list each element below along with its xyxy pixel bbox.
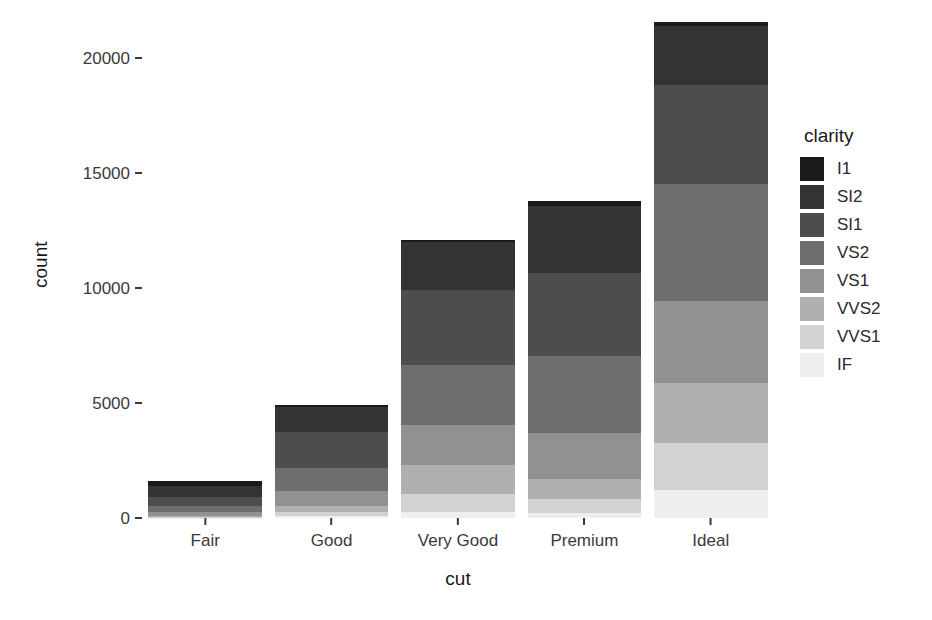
y-tick-label: 15000 xyxy=(83,166,130,182)
y-tick-mark xyxy=(135,517,142,519)
x-tick-mark xyxy=(331,518,333,525)
y-axis-title: count xyxy=(30,258,52,288)
x-tick: Good xyxy=(311,518,353,551)
bar-segment-if[interactable] xyxy=(654,490,768,518)
y-tick-label: 10000 xyxy=(83,281,130,297)
legend-swatch-if xyxy=(800,353,824,377)
legend-item-vvs2[interactable]: VVS2 xyxy=(800,296,925,321)
x-tick-label: Premium xyxy=(550,531,618,551)
y-tick-mark xyxy=(135,402,142,404)
bar-segment-vvs2[interactable] xyxy=(401,465,515,493)
x-tick-mark xyxy=(583,518,585,525)
y-tick: 10000 xyxy=(83,280,142,296)
legend-items: I1SI2SI1VS2VS1VVS2VVS1IF xyxy=(800,156,925,377)
legend-label: VS2 xyxy=(837,243,869,263)
legend-label: SI2 xyxy=(837,187,863,207)
legend-item-i1[interactable]: I1 xyxy=(800,156,925,181)
bar-segment-vs2[interactable] xyxy=(654,184,768,301)
y-tick: 15000 xyxy=(83,165,142,181)
legend-swatch-vs1 xyxy=(800,269,824,293)
bar-segment-vs2[interactable] xyxy=(401,365,515,425)
bar-segment-vvs2[interactable] xyxy=(528,479,642,499)
x-tick: Premium xyxy=(550,518,618,551)
y-tick-mark xyxy=(135,287,142,289)
legend-label: I1 xyxy=(837,159,851,179)
legend-swatch-i1 xyxy=(800,157,824,181)
bar-segment-vs2[interactable] xyxy=(528,356,642,433)
bar-segment-vs2[interactable] xyxy=(275,468,389,490)
legend-item-si1[interactable]: SI1 xyxy=(800,212,925,237)
legend-item-vs1[interactable]: VS1 xyxy=(800,268,925,293)
bar-segment-si1[interactable] xyxy=(275,432,389,468)
legend-title: clarity xyxy=(804,126,925,146)
y-tick: 5000 xyxy=(92,395,142,411)
y-tick: 0 xyxy=(121,510,142,526)
x-tick-label: Fair xyxy=(191,531,220,551)
legend-item-si2[interactable]: SI2 xyxy=(800,184,925,209)
bar-segment-vvs1[interactable] xyxy=(401,494,515,512)
bar-good[interactable] xyxy=(275,405,389,518)
bar-very-good[interactable] xyxy=(401,240,515,518)
bar-premium[interactable] xyxy=(528,201,642,518)
legend-label: IF xyxy=(837,355,852,375)
y-axis-ticks: 05000100001500020000 xyxy=(60,0,142,620)
bar-segment-vvs1[interactable] xyxy=(528,499,642,513)
y-tick-label: 0 xyxy=(121,511,130,527)
bar-segment-si2[interactable] xyxy=(401,242,515,290)
x-tick-mark xyxy=(204,518,206,525)
bar-segment-vs1[interactable] xyxy=(275,491,389,506)
bar-segment-si2[interactable] xyxy=(148,486,262,497)
bar-segment-vs1[interactable] xyxy=(528,433,642,479)
x-axis-title: cut xyxy=(142,568,774,590)
x-tick: Fair xyxy=(191,518,220,551)
legend: clarity I1SI2SI1VS2VS1VVS2VVS1IF xyxy=(800,126,925,380)
bar-segment-si1[interactable] xyxy=(654,85,768,183)
bar-segment-si2[interactable] xyxy=(528,206,642,274)
x-tick-label: Ideal xyxy=(692,531,729,551)
legend-swatch-si1 xyxy=(800,213,824,237)
bar-segment-si2[interactable] xyxy=(275,407,389,432)
x-tick-label: Good xyxy=(311,531,353,551)
legend-item-vs2[interactable]: VS2 xyxy=(800,240,925,265)
bar-segment-si2[interactable] xyxy=(654,26,768,86)
legend-swatch-vs2 xyxy=(800,241,824,265)
x-tick-mark xyxy=(710,518,712,525)
x-tick: Ideal xyxy=(692,518,729,551)
bar-segment-vs1[interactable] xyxy=(401,425,515,466)
legend-item-vvs1[interactable]: VVS1 xyxy=(800,324,925,349)
bar-segment-si1[interactable] xyxy=(148,497,262,506)
legend-swatch-vvs1 xyxy=(800,325,824,349)
y-tick-label: 20000 xyxy=(83,51,130,67)
bar-segment-si1[interactable] xyxy=(528,273,642,355)
legend-swatch-vvs2 xyxy=(800,297,824,321)
y-tick-mark xyxy=(135,172,142,174)
legend-label: VS1 xyxy=(837,271,869,291)
plot-panel xyxy=(142,14,774,518)
legend-label: VVS1 xyxy=(837,327,880,347)
y-tick: 20000 xyxy=(83,50,142,66)
y-tick-mark xyxy=(135,57,142,59)
bar-ideal[interactable] xyxy=(654,22,768,518)
bar-segment-vvs2[interactable] xyxy=(654,383,768,443)
legend-label: VVS2 xyxy=(837,299,880,319)
bar-segment-vs1[interactable] xyxy=(654,301,768,384)
bar-segment-si1[interactable] xyxy=(401,290,515,365)
legend-swatch-si2 xyxy=(800,185,824,209)
y-tick-label: 5000 xyxy=(92,396,130,412)
legend-label: SI1 xyxy=(837,215,863,235)
x-tick-label: Very Good xyxy=(418,531,498,551)
x-axis-ticks: FairGoodVery GoodPremiumIdeal xyxy=(142,518,774,558)
chart-figure: count 05000100001500020000 FairGoodVery … xyxy=(0,0,932,620)
legend-item-if[interactable]: IF xyxy=(800,352,925,377)
x-tick: Very Good xyxy=(418,518,498,551)
bar-segment-vvs1[interactable] xyxy=(654,443,768,490)
bar-fair[interactable] xyxy=(148,481,262,518)
x-tick-mark xyxy=(457,518,459,525)
